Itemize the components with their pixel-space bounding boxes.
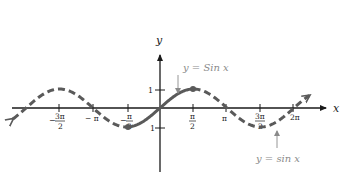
y-axis-label: y xyxy=(155,34,163,47)
svg-text:3π: 3π xyxy=(55,112,65,121)
svg-text:π: π xyxy=(190,112,195,121)
x-axis-label: x xyxy=(333,102,340,115)
annotation-full-label: y = sin x xyxy=(255,153,300,164)
annotation-restricted-label: y = Sin x xyxy=(182,62,229,73)
svg-text:3π: 3π xyxy=(255,112,265,121)
sine-graph: x y − 3π 2 − π − π 2 π 2 π 3π xyxy=(0,0,353,185)
svg-text:− π: − π xyxy=(85,114,99,123)
svg-text:2: 2 xyxy=(58,122,63,131)
svg-text:π: π xyxy=(127,112,132,121)
endpoint-dot-left xyxy=(125,124,131,130)
y-tick-label-1: 1 xyxy=(148,86,153,95)
y-tick-label-neg1: 1 xyxy=(150,124,155,133)
svg-text:2: 2 xyxy=(190,122,195,131)
svg-text:2π: 2π xyxy=(290,113,300,122)
endpoint-dot-right xyxy=(190,86,196,92)
svg-text:π: π xyxy=(222,114,227,123)
svg-text:−: − xyxy=(120,116,127,125)
